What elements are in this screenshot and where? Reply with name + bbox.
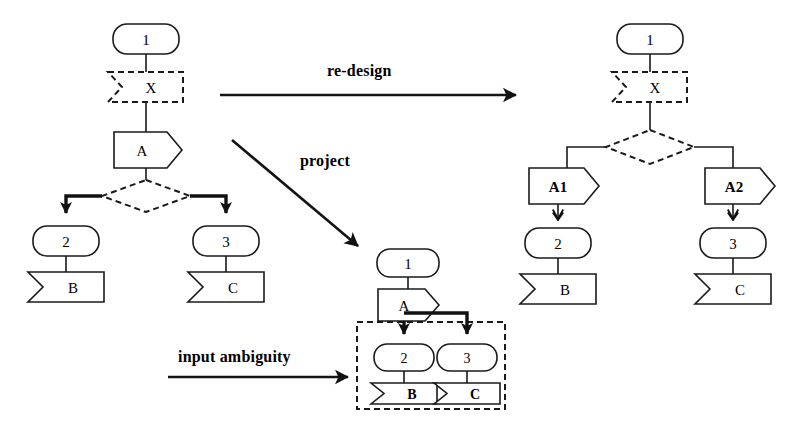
- node-state-3-label: 3: [222, 234, 230, 250]
- label-project: project: [300, 152, 350, 170]
- node-x: X: [108, 72, 183, 102]
- projected-node-state-3: 3: [437, 344, 497, 371]
- redesigned-node-a1: A1: [529, 168, 599, 204]
- node-x-label: X: [146, 80, 157, 96]
- projected-node-state-3-label: 3: [464, 351, 471, 366]
- projected-design-group: 1 A 2 B: [357, 249, 505, 409]
- node-c-label: C: [228, 280, 238, 296]
- redesigned-node-a2-label: A2: [725, 179, 743, 195]
- node-b-label: B: [68, 280, 78, 296]
- redesigned-link-junction-to-a1: [567, 147, 606, 168]
- node-state-1: 1: [113, 24, 179, 54]
- projected-node-a-label: A: [399, 298, 410, 314]
- diagram-canvas: 1 X A: [0, 0, 805, 445]
- redesigned-node-c: C: [695, 274, 771, 304]
- node-a: A: [114, 132, 182, 168]
- projected-node-b: B: [371, 383, 437, 404]
- projected-node-c: C: [434, 383, 500, 404]
- redesigned-node-a1-label: A1: [549, 179, 567, 195]
- redesigned-node-b-label: B: [560, 282, 570, 298]
- redesigned-design-group: 1 X A1 2: [520, 24, 775, 304]
- redesigned-node-state-1: 1: [617, 24, 683, 54]
- original-design-group: 1 X A: [28, 24, 264, 302]
- redesigned-node-state-3-label: 3: [729, 236, 737, 252]
- label-redesign: re-design: [327, 62, 392, 80]
- node-b: B: [28, 272, 104, 302]
- redesigned-node-state-2: 2: [525, 228, 591, 258]
- redesigned-node-a2: A2: [705, 168, 775, 204]
- link-junction-to-2: [66, 196, 102, 213]
- redesigned-node-b: B: [520, 274, 596, 304]
- redesigned-node-x: X: [612, 72, 687, 102]
- diagram-figure: 1 X A: [0, 0, 805, 445]
- node-c: C: [188, 272, 264, 302]
- node-state-3: 3: [193, 226, 259, 256]
- projected-node-state-1-label: 1: [404, 256, 412, 272]
- node-state-2-label: 2: [62, 234, 70, 250]
- node-a-label: A: [137, 143, 148, 159]
- redesigned-link-junction-to-a2: [694, 147, 733, 168]
- projected-node-state-1: 1: [377, 249, 439, 277]
- redesigned-node-c-label: C: [735, 282, 745, 298]
- link-junction-to-3: [190, 196, 226, 213]
- projected-node-state-2: 2: [374, 344, 434, 371]
- projected-node-a: A: [378, 289, 439, 321]
- node-state-2: 2: [33, 226, 99, 256]
- junction-diamond-redesigned: [606, 130, 694, 164]
- node-state-1-label: 1: [142, 32, 150, 48]
- redesigned-node-state-3: 3: [700, 228, 766, 258]
- projected-node-c-label: C: [470, 387, 480, 402]
- projected-node-b-label: B: [407, 387, 416, 402]
- label-input-ambiguity: input ambiguity: [178, 348, 291, 366]
- junction-diamond-original: [102, 180, 190, 212]
- redesigned-node-x-label: X: [650, 80, 661, 96]
- projected-node-state-2-label: 2: [401, 351, 408, 366]
- redesigned-node-state-1-label: 1: [646, 32, 654, 48]
- redesigned-node-state-2-label: 2: [554, 236, 562, 252]
